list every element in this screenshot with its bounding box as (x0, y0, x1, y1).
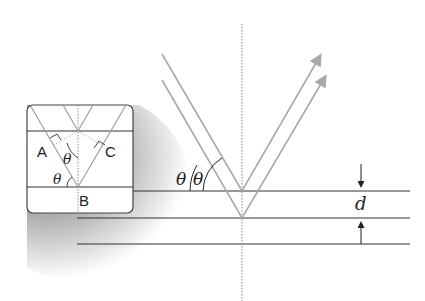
theta-left-label: θ (176, 169, 186, 189)
inset-theta-bottom: θ (53, 171, 62, 187)
bragg-diagram: θ θ d (0, 0, 425, 301)
spacing-label: d (355, 193, 367, 214)
theta-right-label: θ (193, 169, 203, 189)
inset-theta-top: θ (63, 151, 72, 167)
inset-detail: A C B θ θ (27, 105, 133, 213)
point-a-label: A (37, 143, 47, 160)
point-c-label: C (105, 143, 116, 160)
point-b-label: B (79, 192, 89, 209)
